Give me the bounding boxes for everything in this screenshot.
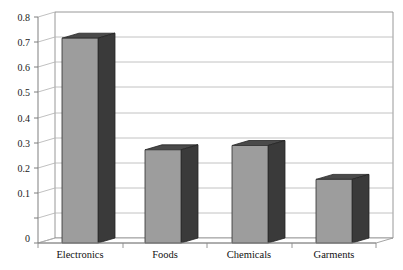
y-tick-label-0: 0 — [25, 233, 30, 244]
x-category-label-foods: Foods — [152, 249, 178, 260]
y-tick-label-0.4: 0.4 — [18, 113, 31, 124]
bar-foods[interactable] — [145, 145, 198, 243]
x-category-label-electronics: Electronics — [56, 249, 103, 260]
bar-electronics[interactable] — [62, 33, 115, 243]
y-tick-label-0.5: 0.5 — [18, 87, 31, 98]
x-axis — [38, 243, 376, 248]
y-axis — [34, 17, 38, 243]
bar-chemicals[interactable] — [232, 141, 285, 244]
y-tick-label-0.3: 0.3 — [18, 138, 31, 149]
y-axis-tick-labels: 0.8 0.7 0.6 0.5 0.4 0.3 0.2 0.1 0 — [18, 12, 31, 244]
y-tick-label-0.6: 0.6 — [18, 62, 31, 73]
x-category-label-garments: Garments — [314, 249, 355, 260]
y-tick-label-0.7: 0.7 — [18, 37, 31, 48]
chart-canvas: 0.8 0.7 0.6 0.5 0.4 0.3 0.2 0.1 0 — [0, 0, 403, 270]
x-category-label-chemicals: Chemicals — [227, 249, 271, 260]
y-tick-label-0.2: 0.2 — [18, 163, 31, 174]
y-tick-label-0.1: 0.1 — [18, 188, 31, 199]
y-tick-label-0.8: 0.8 — [18, 12, 31, 23]
depth-perspective-lines — [38, 12, 55, 243]
x-axis-category-labels: Electronics Foods Chemicals Garments — [56, 249, 354, 260]
bar-garments[interactable] — [316, 174, 369, 243]
bar-chart-figure: 0.8 0.7 0.6 0.5 0.4 0.3 0.2 0.1 0 — [0, 0, 403, 270]
